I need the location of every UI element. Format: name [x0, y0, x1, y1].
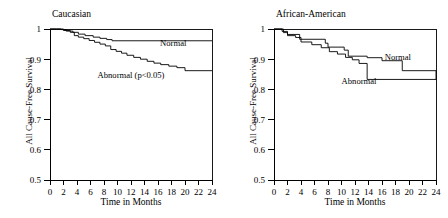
y-tick-label: 0.7 [254, 115, 266, 125]
y-tick-label: 1 [37, 24, 42, 34]
x-tick-label: 2 [285, 187, 290, 197]
km-curve-abnormal-african-american [274, 29, 436, 79]
x-tick-label: 0 [48, 187, 53, 197]
plot-area-african-american: 1 0.9 0.8 0.7 0.6 0.5 [224, 0, 448, 218]
x-tick-label: 20 [181, 187, 191, 197]
x-tick-label: 6 [312, 187, 317, 197]
x-ticks-right: 0 2 4 6 8 10 12 14 16 18 20 22 24 [272, 180, 441, 197]
x-tick-label: 20 [405, 187, 415, 197]
y-tick-label: 0.9 [254, 55, 266, 65]
plot-area-caucasian: 1 0.9 0.8 0.7 0.6 0.5 [0, 0, 224, 218]
panel-african-american: African-American All Cause-Free Survival… [224, 0, 448, 218]
x-tick-label: 0 [272, 187, 277, 197]
y-ticks-left: 1 0.9 0.8 0.7 0.6 0.5 [30, 24, 50, 185]
x-tick-label: 14 [140, 187, 150, 197]
km-curve-abnormal-caucasian [50, 29, 212, 71]
y-tick-label: 0.6 [30, 145, 42, 155]
x-tick-label: 24 [432, 187, 442, 197]
curve-annotation-abnormal-left: Abnormal (p<0.05) [98, 70, 165, 80]
x-tick-label: 16 [154, 187, 164, 197]
y-tick-label: 1 [261, 24, 266, 34]
x-tick-label: 18 [391, 187, 401, 197]
axes-right [274, 29, 436, 180]
y-tick-label: 0.7 [30, 115, 42, 125]
x-tick-label: 12 [351, 187, 360, 197]
x-tick-label: 8 [102, 187, 107, 197]
x-tick-label: 2 [61, 187, 66, 197]
x-tick-label: 18 [167, 187, 177, 197]
y-tick-label: 0.5 [254, 175, 266, 185]
y-tick-label: 0.9 [30, 55, 42, 65]
y-tick-label: 0.5 [30, 175, 42, 185]
x-tick-label: 10 [337, 187, 347, 197]
y-tick-label: 0.6 [254, 145, 266, 155]
x-tick-label: 22 [418, 187, 427, 197]
x-tick-label: 4 [75, 187, 80, 197]
x-tick-label: 14 [364, 187, 374, 197]
x-tick-label: 22 [194, 187, 203, 197]
y-tick-label: 0.8 [30, 85, 42, 95]
x-ticks-left: 0 2 4 6 8 10 12 14 16 18 20 22 24 [48, 180, 217, 197]
x-tick-label: 16 [378, 187, 388, 197]
x-tick-label: 8 [326, 187, 331, 197]
x-tick-label: 10 [113, 187, 123, 197]
curve-annotation-normal-right: Normal [385, 52, 412, 62]
curve-annotation-abnormal-right: Abnormal [342, 76, 377, 86]
x-tick-label: 4 [299, 187, 304, 197]
x-tick-label: 24 [208, 187, 218, 197]
curve-annotation-normal-left: Normal [160, 38, 187, 48]
figure-container: Caucasian All Cause-Free Survival Time i… [0, 0, 448, 218]
y-tick-label: 0.8 [254, 85, 266, 95]
x-tick-label: 6 [88, 187, 93, 197]
axes-left [50, 29, 212, 180]
y-ticks-right: 1 0.9 0.8 0.7 0.6 0.5 [254, 24, 274, 185]
x-tick-label: 12 [127, 187, 136, 197]
panel-caucasian: Caucasian All Cause-Free Survival Time i… [0, 0, 224, 218]
km-curve-normal-african-american [274, 29, 436, 79]
